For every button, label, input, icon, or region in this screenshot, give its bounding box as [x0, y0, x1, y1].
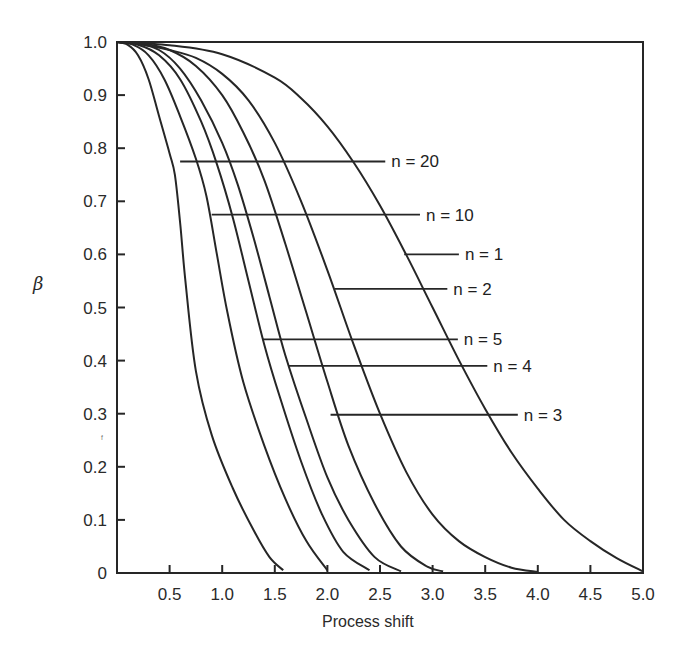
- curve-label: n = 5: [464, 330, 502, 349]
- oc-curve-n3: [117, 42, 443, 571]
- x-axis-title: Process shift: [322, 613, 414, 630]
- y-tick-label: 0.7: [83, 192, 107, 211]
- x-tick-label: 1.5: [263, 585, 287, 604]
- oc-curve-chart: 00.10.20.30.40.50.60.70.80.91.0 0.51.01.…: [0, 0, 686, 666]
- x-tick-label: 3.5: [473, 585, 497, 604]
- x-tick-label: 3.0: [421, 585, 445, 604]
- y-tick-label: 0.2: [83, 458, 107, 477]
- y-tick-label: 0.1: [83, 511, 107, 530]
- curve-labels: n = 20n = 10n = 5n = 4n = 3n = 2n = 1: [180, 152, 562, 424]
- curve-label: n = 20: [391, 152, 439, 171]
- oc-curves: [117, 42, 643, 572]
- y-tick-label: 0.5: [83, 299, 107, 318]
- curve-label: n = 2: [453, 280, 491, 299]
- x-axis-ticks: 0.51.01.52.02.53.03.54.04.55.0: [158, 565, 655, 604]
- oc-curve-n10: [117, 42, 327, 570]
- y-tick-label: 0.8: [83, 139, 107, 158]
- y-axis-title: β: [32, 273, 43, 294]
- y-tick-label: 0.6: [83, 245, 107, 264]
- x-tick-label: 1.0: [210, 585, 234, 604]
- curve-label: n = 3: [524, 406, 562, 425]
- x-tick-label: 4.5: [579, 585, 603, 604]
- oc-curve-n1: [117, 42, 643, 571]
- y-tick-label: 0.4: [83, 352, 107, 371]
- x-tick-label: 0.5: [158, 585, 182, 604]
- oc-curve-n2: [117, 42, 538, 572]
- y-axis-ticks: 00.10.20.30.40.50.60.70.80.91.0: [83, 33, 125, 583]
- y-tick-label: 0.3: [83, 405, 107, 424]
- curve-label: n = 10: [426, 206, 474, 225]
- y-tick-label: 0.9: [83, 86, 107, 105]
- oc-curve-n5: [117, 42, 370, 570]
- curve-label: n = 1: [465, 245, 503, 264]
- plot-frame: [117, 42, 643, 573]
- x-tick-label: 5.0: [631, 585, 655, 604]
- x-tick-label: 4.0: [526, 585, 550, 604]
- curve-label: n = 4: [493, 357, 531, 376]
- plot-border: [117, 42, 643, 573]
- y-tick-label: 0: [98, 564, 107, 583]
- stray-mark: ᶠ: [101, 434, 103, 444]
- y-tick-label: 1.0: [83, 33, 107, 52]
- x-tick-label: 2.0: [316, 585, 340, 604]
- x-tick-label: 2.5: [368, 585, 392, 604]
